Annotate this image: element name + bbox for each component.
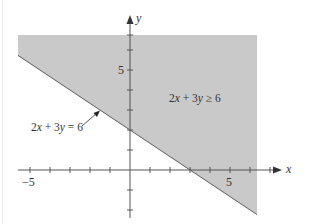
graph-figure: y x −5 5 5 2x + 3y = 6 2x + 3y ≥ 6 [0, 0, 311, 224]
ineq-relation: ≥ 6 [203, 92, 221, 104]
boundary-equation-label: 2x + 3y = 6 [31, 122, 83, 134]
ineq-plus-3: + 3 [180, 92, 198, 104]
eq-plus-3: + 3 [42, 121, 60, 133]
plot-canvas [0, 0, 311, 224]
eq-relation: = 6 [65, 121, 83, 133]
region-inequality-label: 2x + 3y ≥ 6 [169, 93, 221, 105]
y-tick-label-5: 5 [118, 64, 124, 76]
x-tick-label-neg5: −5 [22, 176, 35, 188]
y-axis-arrow-icon [127, 15, 134, 24]
annotation-arrow [82, 111, 100, 127]
x-tick-label-5: 5 [226, 176, 232, 188]
x-axis-label: x [286, 163, 291, 175]
x-axis-arrow-icon [273, 167, 282, 174]
y-axis-label: y [136, 12, 141, 24]
annotation-arrowhead-icon [94, 111, 101, 118]
